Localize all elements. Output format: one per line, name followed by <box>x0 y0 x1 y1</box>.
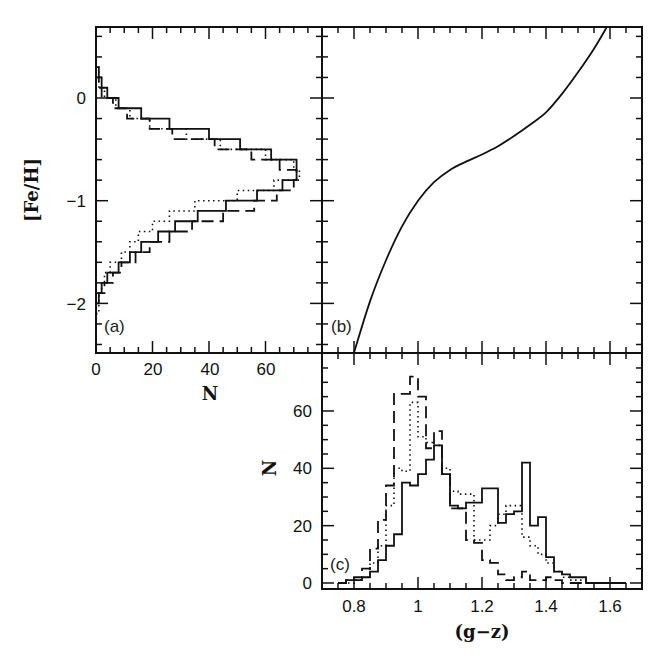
panel-c-xlabel: (g−z) <box>455 621 510 642</box>
panel-a-ylabel: [Fe/H] <box>21 158 42 222</box>
histogram-dashed <box>338 377 626 583</box>
panel-a-histogram <box>96 57 299 314</box>
panel-c-label: (c) <box>330 555 350 574</box>
axis-ticks <box>96 27 642 589</box>
panel-a-label: (a) <box>104 317 125 336</box>
figure: 0 20 40 60 N 0 −1 −2 [Fe/H] (a) (b) (c) … <box>0 0 665 664</box>
panel-c-xtick-0.8: 0.8 <box>342 597 366 616</box>
relation-curve <box>354 27 607 353</box>
panel-a-ytick-minus2: −2 <box>67 295 86 314</box>
panel-a-xtick-0: 0 <box>91 360 100 379</box>
panel-c-xtick-1.4: 1.4 <box>534 597 558 616</box>
panel-a-xtick-60: 60 <box>257 360 276 379</box>
histogram-dashed <box>96 57 297 314</box>
panel-a-ytick-0: 0 <box>77 89 86 108</box>
histogram-solid <box>96 57 297 314</box>
panel-c-xtick-1: 1 <box>413 597 422 616</box>
panel-b-relation-curve <box>354 27 607 353</box>
panel-a-xtick-20: 20 <box>144 360 163 379</box>
panel-c-xtick-1.6: 1.6 <box>598 597 622 616</box>
panel-c-ylabel: N <box>259 460 280 476</box>
panel-c-ytick-0: 0 <box>303 574 312 593</box>
histogram-solid <box>338 445 626 583</box>
panel-b-label: (b) <box>331 317 352 336</box>
panel-a-xtick-40: 40 <box>201 360 220 379</box>
panel-c-xtick-1.2: 1.2 <box>470 597 494 616</box>
panel-c-histogram <box>338 377 626 583</box>
axes-frames <box>96 27 642 589</box>
panel-c-ytick-40: 40 <box>293 459 312 478</box>
panel-a-xlabel: N <box>202 383 218 404</box>
panel-c-ytick-60: 60 <box>293 402 312 421</box>
panel-c-ytick-20: 20 <box>293 517 312 536</box>
panel-a-ytick-minus1: −1 <box>67 192 86 211</box>
histogram-dotted <box>96 57 299 314</box>
